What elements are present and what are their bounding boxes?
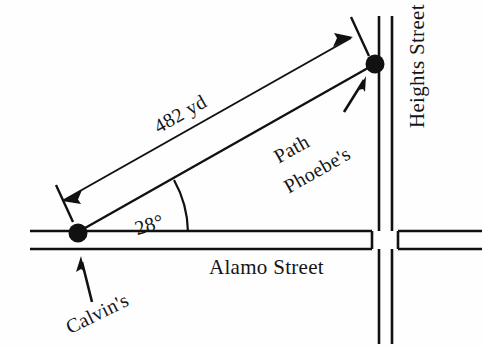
intersection-corners [372,231,398,249]
dimension-arrowhead-right [333,33,353,47]
alamo-street-label: Alamo Street [209,255,324,280]
alamo-street-lines [30,231,482,249]
phoebes-pointer-arrow [344,76,366,112]
calvins-pointer-arrow [76,256,92,302]
diagram-canvas: Alamo Street Heights Street 482 yd Path … [0,0,484,348]
phoebes-arrowhead [358,76,366,92]
heights-street-label: Heights Street [405,0,430,128]
extension-tick-right [351,17,369,56]
extension-tick-left [56,185,73,222]
calvins-house-dot [69,224,88,243]
dimension-extension-ticks [56,17,369,222]
phoebes-house-dot [366,55,385,74]
angle-arc-28-degrees [174,180,188,232]
